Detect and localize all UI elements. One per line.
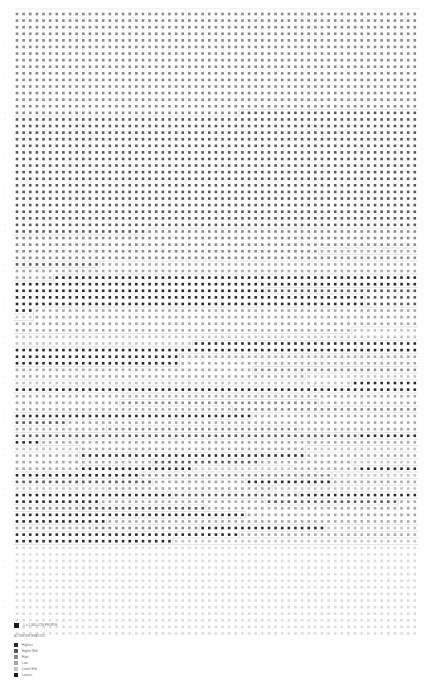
dot-level-5 <box>49 263 52 266</box>
dot-level-4 <box>374 257 377 260</box>
dot-level-3 <box>128 369 131 372</box>
dot-level-3 <box>36 395 39 398</box>
dot-level-4 <box>208 112 211 115</box>
dot-level-6 <box>148 349 151 352</box>
dot-level-3 <box>115 316 118 319</box>
dot-level-6 <box>201 527 204 530</box>
dot-level-5 <box>254 164 257 167</box>
dot-level-3 <box>201 369 204 372</box>
dot-level-5 <box>55 184 58 187</box>
dot-level-4 <box>162 474 165 477</box>
dot-level-3 <box>347 402 350 405</box>
dot-level-3 <box>394 454 397 457</box>
dot-level-5 <box>380 289 383 292</box>
dot-level-5 <box>89 164 92 167</box>
dot-level-3 <box>168 309 171 312</box>
dot-level-5 <box>162 461 165 464</box>
dot-level-6 <box>16 355 19 358</box>
dot-level-3 <box>148 408 151 411</box>
dot-level-4 <box>374 369 377 372</box>
dot-level-5 <box>234 210 237 213</box>
dot-level-4 <box>367 408 370 411</box>
dot-level-4 <box>89 112 92 115</box>
dot-level-1 <box>162 626 165 629</box>
dot-level-5 <box>49 217 52 220</box>
dot-level-4 <box>82 250 85 253</box>
dot-level-4 <box>128 527 131 530</box>
dot-level-4 <box>201 72 204 75</box>
dot-level-4 <box>42 46 45 49</box>
dot-level-1 <box>168 560 171 563</box>
dot-level-4 <box>109 72 112 75</box>
dot-level-4 <box>215 237 218 240</box>
dot-level-6 <box>102 296 105 299</box>
dot-level-5 <box>128 191 131 194</box>
dot-level-5 <box>274 204 277 207</box>
dot-level-1 <box>55 579 58 582</box>
dot-level-3 <box>347 355 350 358</box>
dot-level-1 <box>360 599 363 602</box>
dot-level-5 <box>175 171 178 174</box>
dot-level-5 <box>69 263 72 266</box>
dot-level-3 <box>49 276 52 279</box>
dot-level-1 <box>142 619 145 622</box>
dot-level-4 <box>354 105 357 108</box>
dot-level-4 <box>380 92 383 95</box>
dot-level-1 <box>301 579 304 582</box>
dot-level-4 <box>215 230 218 233</box>
dot-level-3 <box>195 355 198 358</box>
dot-level-5 <box>168 191 171 194</box>
dot-level-5 <box>49 177 52 180</box>
dot-level-1 <box>109 579 112 582</box>
dot-level-6 <box>301 283 304 286</box>
dot-level-5 <box>36 204 39 207</box>
dot-level-5 <box>327 125 330 128</box>
dot-level-3 <box>122 263 125 266</box>
dot-level-4 <box>49 250 52 253</box>
dot-level-4 <box>128 250 131 253</box>
dot-level-4 <box>261 52 264 55</box>
dot-level-6 <box>16 520 19 523</box>
dot-level-4 <box>347 85 350 88</box>
dot-level-6 <box>102 540 105 543</box>
dot-level-4 <box>380 59 383 62</box>
dot-level-6 <box>148 533 151 536</box>
dot-level-3 <box>75 454 78 457</box>
dot-level-3 <box>254 322 257 325</box>
dot-level-6 <box>314 388 317 391</box>
dot-level-6 <box>162 355 165 358</box>
dot-level-1 <box>128 560 131 563</box>
dot-level-6 <box>142 388 145 391</box>
dot-level-1 <box>367 626 370 629</box>
dot-level-1 <box>407 560 410 563</box>
dot-level-1 <box>354 573 357 576</box>
dot-level-3 <box>400 514 403 517</box>
dot-level-5 <box>407 289 410 292</box>
dot-level-4 <box>248 59 251 62</box>
dot-level-6 <box>82 533 85 536</box>
dot-level-4 <box>128 79 131 82</box>
dot-level-3 <box>22 375 25 378</box>
dot-level-6 <box>162 296 165 299</box>
dot-level-3 <box>215 487 218 490</box>
dot-level-4 <box>42 112 45 115</box>
dot-level-1 <box>254 579 257 582</box>
dot-level-2 <box>387 336 390 339</box>
dot-level-4 <box>36 257 39 260</box>
dot-level-1 <box>175 586 178 589</box>
dot-level-5 <box>89 177 92 180</box>
dot-level-4 <box>274 46 277 49</box>
dot-level-6 <box>261 276 264 279</box>
dot-level-5 <box>228 125 231 128</box>
dot-level-4 <box>307 39 310 42</box>
dot-level-6 <box>69 296 72 299</box>
dot-level-2 <box>241 336 244 339</box>
dot-level-4 <box>195 112 198 115</box>
dot-level-6 <box>195 454 198 457</box>
dot-level-4 <box>334 92 337 95</box>
dot-level-6 <box>234 349 237 352</box>
dot-level-4 <box>307 72 310 75</box>
dot-level-4 <box>360 19 363 22</box>
dot-level-6 <box>22 303 25 306</box>
dot-level-1 <box>334 612 337 615</box>
